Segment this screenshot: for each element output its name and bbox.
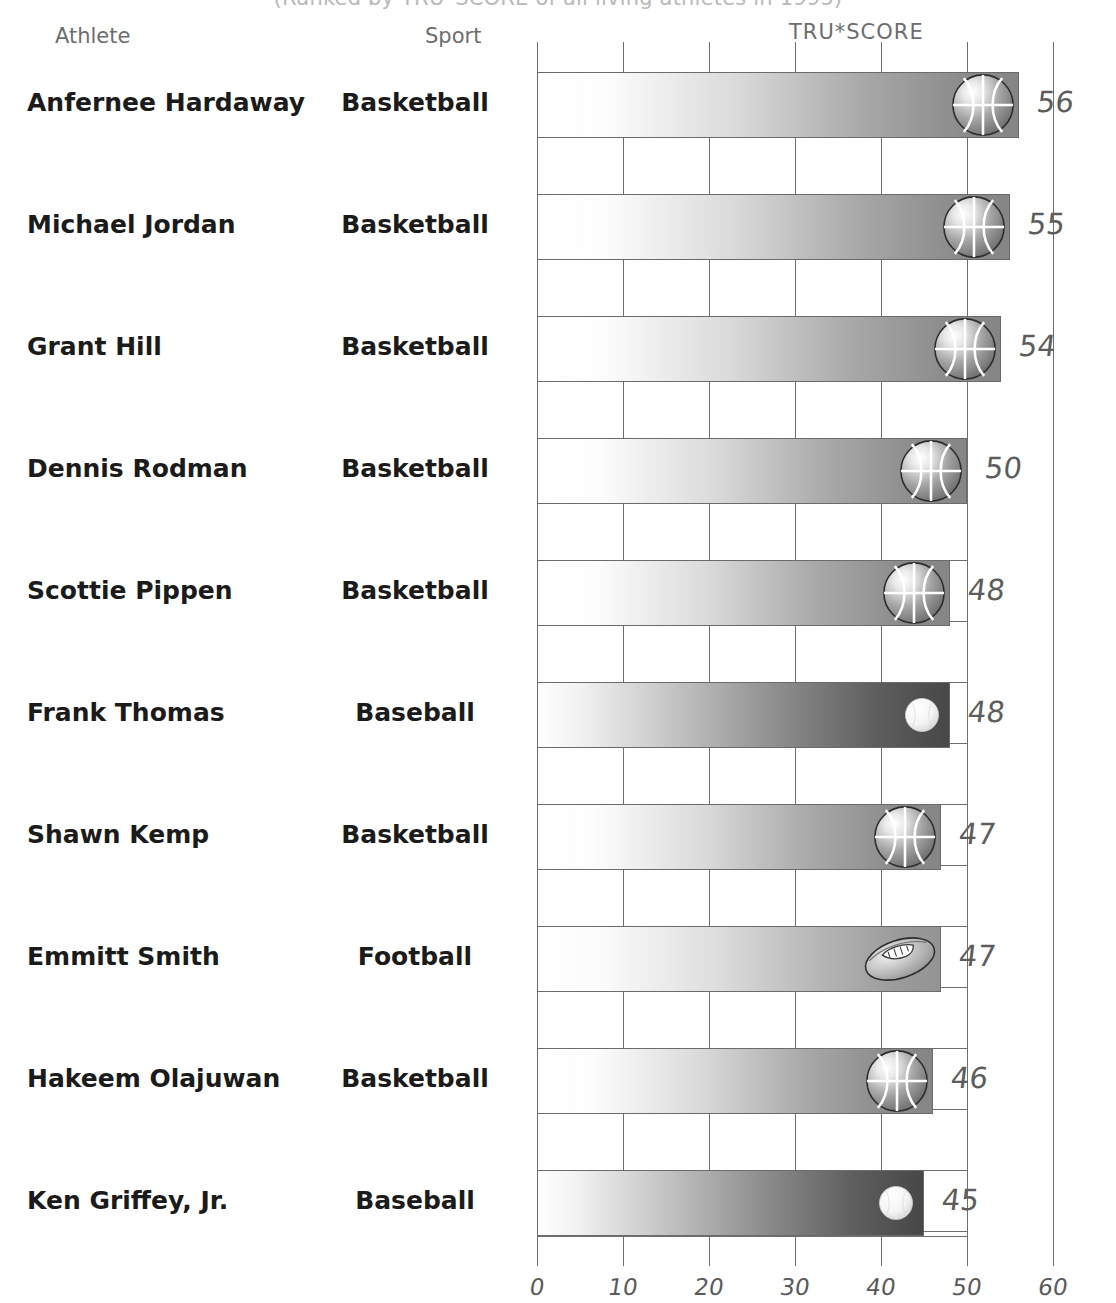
athlete-sport: Basketball <box>280 820 550 849</box>
score-bar[interactable] <box>537 560 950 626</box>
x-axis-label-0: 0 <box>528 1274 547 1300</box>
x-axis-label-60: 60 <box>1036 1274 1069 1300</box>
athlete-sport: Basketball <box>280 1064 550 1093</box>
score-bar[interactable] <box>537 682 950 748</box>
score-value-label: 50 <box>983 451 1024 485</box>
score-bar[interactable] <box>537 1048 933 1114</box>
score-value-label: 55 <box>1026 207 1067 241</box>
chart-canvas: (Ranked by TRU*SCORE of all living athle… <box>0 0 1116 1303</box>
score-value-label: 56 <box>1035 85 1076 119</box>
athlete-sport: Basketball <box>280 88 550 117</box>
chart-title: (Ranked by TRU*SCORE of all living athle… <box>0 0 1116 10</box>
score-value-label: 48 <box>966 695 1007 729</box>
athlete-name: Emmitt Smith <box>27 942 220 971</box>
score-bar[interactable] <box>537 804 941 870</box>
axis-tick-top-60 <box>1053 42 1054 72</box>
athlete-name: Anfernee Hardaway <box>27 88 305 117</box>
athlete-name: Ken Griffey, Jr. <box>27 1186 228 1215</box>
column-header-sport: Sport <box>425 24 481 48</box>
score-value-label: 45 <box>940 1183 981 1217</box>
athlete-sport: Basketball <box>280 210 550 239</box>
x-axis-label-40: 40 <box>864 1274 897 1300</box>
axis-tick-bottom-0 <box>537 1236 538 1266</box>
score-bar[interactable] <box>537 926 941 992</box>
athlete-name: Michael Jordan <box>27 210 236 239</box>
axis-tick-bottom-40 <box>881 1236 882 1266</box>
athlete-sport: Basketball <box>280 576 550 605</box>
score-bar[interactable] <box>537 194 1010 260</box>
x-axis-label-30: 30 <box>778 1274 811 1300</box>
athlete-name: Hakeem Olajuwan <box>27 1064 280 1093</box>
axis-tick-bottom-10 <box>623 1236 624 1266</box>
score-bar[interactable] <box>537 1170 924 1236</box>
axis-tick-top-10 <box>623 42 624 72</box>
athlete-name: Dennis Rodman <box>27 454 248 483</box>
axis-tick-top-0 <box>537 42 538 72</box>
gridline-row-bottom <box>537 1236 967 1237</box>
axis-tick-bottom-60 <box>1053 1236 1054 1266</box>
column-header-score: TRU*SCORE <box>789 20 924 44</box>
score-value-label: 54 <box>1017 329 1058 363</box>
score-bar[interactable] <box>537 72 1019 138</box>
axis-tick-top-50 <box>967 42 968 72</box>
gridline-x-60 <box>1053 72 1054 1236</box>
axis-tick-top-20 <box>709 42 710 72</box>
axis-tick-bottom-30 <box>795 1236 796 1266</box>
score-value-label: 48 <box>966 573 1007 607</box>
axis-tick-bottom-20 <box>709 1236 710 1266</box>
athlete-sport: Football <box>280 942 550 971</box>
athlete-sport: Baseball <box>280 1186 550 1215</box>
score-bar[interactable] <box>537 438 967 504</box>
axis-tick-bottom-50 <box>967 1236 968 1266</box>
athlete-name: Scottie Pippen <box>27 576 233 605</box>
athlete-name: Shawn Kemp <box>27 820 209 849</box>
axis-tick-top-40 <box>881 42 882 72</box>
athlete-name: Grant Hill <box>27 332 162 361</box>
column-header-athlete: Athlete <box>55 24 130 48</box>
x-axis-label-50: 50 <box>950 1274 983 1300</box>
athlete-name: Frank Thomas <box>27 698 225 727</box>
x-axis-label-20: 20 <box>692 1274 725 1300</box>
score-value-label: 47 <box>957 939 998 973</box>
score-bar[interactable] <box>537 316 1001 382</box>
score-value-label: 46 <box>949 1061 990 1095</box>
x-axis-label-10: 10 <box>606 1274 639 1300</box>
athlete-sport: Baseball <box>280 698 550 727</box>
score-value-label: 47 <box>957 817 998 851</box>
athlete-sport: Basketball <box>280 454 550 483</box>
athlete-sport: Basketball <box>280 332 550 361</box>
axis-tick-top-30 <box>795 42 796 72</box>
